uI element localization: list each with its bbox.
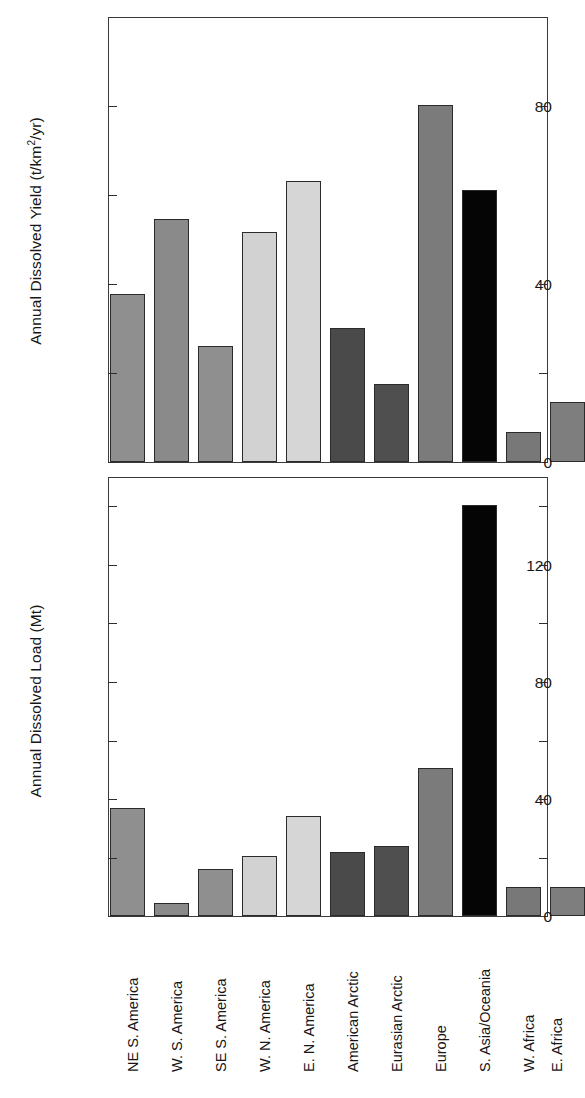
bar-top-7: [418, 105, 453, 462]
bottom-ytick-right-40: [539, 799, 548, 800]
top-y-axis-title-pre: Annual Dissolved Yield (t/km: [27, 146, 44, 345]
xtick-label-5: American Arctic: [345, 971, 361, 1072]
bottom-ytick-label-80: 80: [454, 674, 552, 692]
top-ytick-mark-80: [108, 106, 117, 107]
bottom-ytick-label-40: 40: [454, 791, 552, 809]
xtick-label-4: E. N. America: [301, 983, 317, 1072]
bar-bottom-0: [110, 808, 145, 917]
xtick-label-1: W. S. America: [169, 981, 185, 1072]
top-ytick-mark-0: [108, 462, 117, 463]
panel-dissolved-load: Annual Dissolved Load (Mt) 0 40 80: [0, 470, 552, 930]
xtick-label-0: NE S. America: [125, 978, 141, 1072]
bottom-ytick-mark-80: [108, 682, 117, 683]
bar-top-2: [198, 346, 233, 462]
top-y-axis-title-post: /yr): [27, 117, 44, 140]
bottom-ytick-mark-40: [108, 799, 117, 800]
bottom-ytick-mark-20: [108, 858, 117, 859]
top-y-axis-title-superscript: 2: [26, 140, 37, 146]
bar-bottom-1: [154, 903, 189, 916]
top-ytick-label-80: 80: [454, 98, 552, 116]
top-ytick-mark-60: [108, 195, 117, 196]
xtick-label-3: W. N. America: [257, 980, 273, 1072]
bottom-ytick-right-20: [539, 858, 548, 859]
bottom-ytick-label-120: 120: [454, 557, 552, 575]
bottom-y-axis-title: Annual Dissolved Load (Mt): [27, 481, 45, 921]
top-ytick-mark-20: [108, 373, 117, 374]
top-ytick-label-40: 40: [454, 276, 552, 294]
xtick-label-10: E. Africa: [549, 1018, 565, 1072]
xtick-label-6: Eurasian Arctic: [389, 975, 405, 1072]
xtick-label-2: SE S. America: [213, 979, 229, 1072]
top-ytick-mark-40: [108, 284, 117, 285]
bottom-ytick-right-100: [539, 623, 548, 624]
bar-top-0: [110, 294, 145, 462]
bottom-ytick-label-0: 0: [454, 908, 552, 926]
bar-top-3: [242, 232, 277, 462]
top-ytick-right-40: [539, 284, 548, 285]
bar-bottom-10: [550, 887, 585, 916]
bar-bottom-5: [330, 852, 365, 917]
bottom-ytick-mark-120: [108, 565, 117, 566]
bottom-plot-frame: [108, 477, 548, 917]
bar-top-6: [374, 384, 409, 462]
bar-top-5: [330, 328, 365, 462]
bar-top-10: [550, 402, 585, 462]
bar-top-8: [462, 190, 497, 462]
top-ytick-right-80: [539, 106, 548, 107]
top-ytick-right-20: [539, 373, 548, 374]
xtick-label-9: W. Africa: [521, 1015, 537, 1072]
bottom-ytick-right-80: [539, 682, 548, 683]
bar-bottom-4: [286, 816, 321, 916]
bottom-ytick-mark-140: [108, 506, 117, 507]
bar-bottom-6: [374, 846, 409, 916]
panel-dissolved-yield: Annual Dissolved Yield (t/km2/yr) 0 40 8…: [0, 0, 552, 470]
bar-bottom-7: [418, 768, 453, 916]
bottom-ytick-right-60: [539, 741, 548, 742]
bar-bottom-2: [198, 869, 233, 916]
bottom-ytick-right-120: [539, 565, 548, 566]
xtick-label-7: Europe: [433, 1025, 449, 1072]
top-plot-frame: [108, 17, 548, 463]
bar-bottom-3: [242, 856, 277, 916]
top-y-axis-title: Annual Dissolved Yield (t/km2/yr): [27, 11, 45, 451]
xtick-label-8: S. Asia/Oceania: [477, 969, 493, 1072]
bottom-ytick-mark-100: [108, 623, 117, 624]
bottom-ytick-right-140: [539, 506, 548, 507]
bar-top-4: [286, 181, 321, 462]
bar-top-1: [154, 219, 189, 462]
bottom-ytick-mark-0: [108, 916, 117, 917]
bottom-ytick-mark-60: [108, 741, 117, 742]
